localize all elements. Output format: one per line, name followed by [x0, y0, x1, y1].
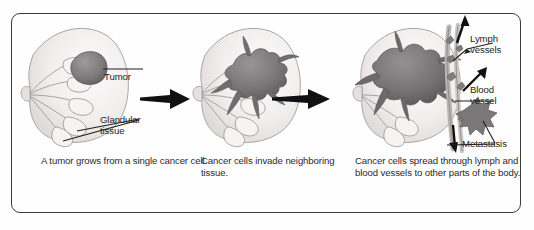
progression-arrow-2 — [272, 86, 332, 112]
label-tumor: Tumor — [104, 71, 131, 82]
label-lymph-vessels: Lymph vessels — [470, 33, 501, 55]
label-glandular-tissue: Glandular tissue — [100, 114, 141, 136]
panel-local-invasion: Cancer cells invade neighboring tissue. — [183, 13, 343, 213]
panel-tumor-growth: A tumor grows from a single cancer cell. — [11, 13, 183, 213]
cancer-progression-figure: A tumor grows from a single cancer cell.… — [0, 0, 534, 230]
label-blood-vessel: Blood vessel — [470, 84, 497, 106]
panel-2-caption: Cancer cells invade neighboring tissue. — [183, 155, 361, 178]
label-metastasis: Metastasis — [462, 138, 507, 149]
panel-3-caption: Cancer cells spread through lymph and bl… — [343, 155, 534, 178]
